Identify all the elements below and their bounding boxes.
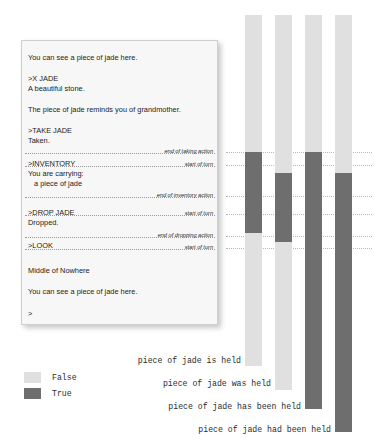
transcript-event-marker: end of taking action (22, 145, 217, 154)
event-caption: end of inventory action (157, 192, 213, 198)
state-segment-false (335, 15, 352, 173)
legend: FalseTrue (24, 369, 124, 401)
legend-label: True (52, 389, 72, 398)
bar-label: piece of jade is held (0, 356, 241, 365)
transcript-event-marker: end of dropping action (22, 229, 217, 238)
state-segment-false (275, 15, 292, 173)
state-segment-false (245, 15, 262, 152)
transcript-line: A beautiful stone. (28, 84, 85, 93)
state-segment-false (245, 233, 262, 366)
bar-label: piece of jade has been held (0, 402, 301, 411)
event-caption: start of turn (185, 244, 213, 250)
transcript-line: The piece of jade reminds you of grandmo… (28, 105, 181, 114)
state-segment-true (275, 173, 292, 242)
transcript-event-marker: start of turn (22, 241, 217, 250)
state-segment-false (275, 242, 292, 390)
state-bar (335, 15, 352, 432)
event-caption: end of taking action (164, 148, 213, 154)
state-bar (305, 15, 322, 409)
transcript-event-marker: end of inventory action (22, 189, 217, 198)
transcript-line: You can see a piece of jade here. (28, 53, 137, 62)
transcript-line: Dropped. (28, 218, 58, 227)
legend-label: False (52, 373, 77, 382)
legend-item-false: False (24, 369, 124, 385)
gridline (226, 165, 372, 166)
gridline (226, 152, 372, 153)
gridline (226, 214, 372, 215)
gridline (226, 248, 372, 249)
transcript-line: You can see a piece of jade here. (28, 287, 137, 296)
legend-swatch-false (24, 372, 41, 383)
event-caption: end of dropping action (158, 232, 213, 238)
transcript-line: Middle of Nowhere (28, 266, 90, 275)
gridline (226, 236, 372, 237)
state-bar (245, 15, 262, 366)
event-caption: start of turn (185, 161, 213, 167)
transcript-line: >TAKE JADE (28, 126, 72, 135)
state-bar (275, 15, 292, 390)
transcript-line: You are carrying: (28, 169, 84, 178)
state-segment-true (305, 152, 322, 409)
transcript-line: > (28, 309, 32, 318)
legend-swatch-true (24, 388, 41, 399)
bar-label: piece of jade had been held (0, 425, 331, 434)
gridline (226, 196, 372, 197)
transcript-event-marker: start of turn (22, 207, 217, 216)
legend-item-true: True (24, 385, 124, 401)
game-transcript-panel: You can see a piece of jade here.>X JADE… (21, 40, 218, 325)
transcript-line: >X JADE (28, 74, 58, 83)
state-segment-true (245, 152, 262, 233)
state-segment-true (335, 173, 352, 432)
transcript-event-marker: start of turn (22, 158, 217, 167)
transcript-line: a piece of jade (34, 179, 82, 188)
state-segment-false (305, 15, 322, 152)
event-caption: start of turn (185, 210, 213, 216)
transcript-line: Taken. (28, 136, 50, 145)
